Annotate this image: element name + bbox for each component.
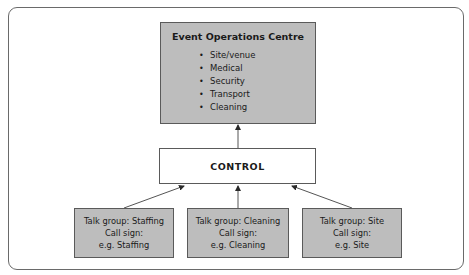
connector-arrows xyxy=(0,0,469,275)
arrow-site-to-control xyxy=(292,186,352,208)
arrow-staffing-to-control xyxy=(124,186,184,208)
